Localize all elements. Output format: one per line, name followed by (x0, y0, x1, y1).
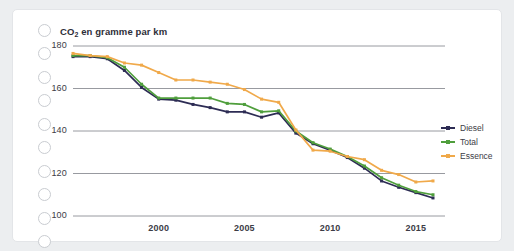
data-point-essence (174, 79, 177, 82)
data-point-essence (432, 179, 435, 182)
data-point-total (226, 102, 229, 105)
data-point-essence (277, 101, 280, 104)
data-point-diesel (209, 106, 212, 109)
legend-label: Diesel (460, 123, 484, 133)
data-point-diesel (380, 179, 383, 182)
data-point-essence (140, 64, 143, 67)
legend-swatch-icon (441, 124, 455, 133)
data-point-diesel (243, 110, 246, 113)
y-axis-tick-label: 160 (41, 83, 67, 93)
line-chart-svg (13, 10, 503, 243)
data-point-essence (329, 150, 332, 153)
legend-swatch-icon (441, 152, 455, 161)
data-point-total (260, 110, 263, 113)
data-point-essence (363, 158, 366, 161)
data-point-total (157, 97, 160, 100)
data-point-essence (226, 83, 229, 86)
data-point-essence (243, 88, 246, 91)
data-point-essence (72, 52, 75, 55)
data-point-total (363, 165, 366, 168)
data-point-diesel (140, 86, 143, 89)
y-axis-tick-label: 180 (41, 40, 67, 50)
legend-item-diesel[interactable]: Diesel (441, 121, 503, 135)
data-point-total (380, 176, 383, 179)
data-point-essence (209, 81, 212, 84)
x-axis-tick-label: 2000 (139, 223, 179, 233)
y-axis-tick-label: 140 (41, 125, 67, 135)
data-point-essence (157, 71, 160, 74)
data-point-total (192, 97, 195, 100)
data-point-total (397, 184, 400, 187)
chart-legend: DieselTotalEssence (441, 121, 503, 163)
legend-label: Essence (460, 151, 493, 161)
data-point-essence (312, 149, 315, 152)
data-point-total (140, 83, 143, 86)
screenshot-root: CO2 en gramme par km 1801601401201002000… (0, 0, 514, 251)
data-point-total (432, 193, 435, 196)
data-point-total (123, 66, 126, 69)
plot-area: 1801601401201002000200520102015 (13, 10, 503, 243)
data-point-essence (380, 169, 383, 172)
x-axis-tick-label: 2005 (224, 223, 264, 233)
data-point-essence (260, 98, 263, 101)
data-point-diesel (432, 196, 435, 199)
data-point-essence (346, 155, 349, 158)
y-axis-tick-label: 120 (41, 168, 67, 178)
data-point-total (312, 141, 315, 144)
data-point-total (209, 97, 212, 100)
legend-swatch-icon (441, 138, 455, 147)
data-point-diesel (260, 116, 263, 119)
data-point-total (243, 103, 246, 106)
data-point-diesel (192, 103, 195, 106)
data-point-total (414, 190, 417, 193)
legend-label: Total (460, 137, 478, 147)
data-point-essence (397, 173, 400, 176)
legend-item-total[interactable]: Total (441, 135, 503, 149)
data-point-essence (89, 54, 92, 57)
data-point-essence (106, 55, 109, 58)
data-point-essence (123, 62, 126, 65)
chart-card: CO2 en gramme par km 1801601401201002000… (12, 9, 502, 242)
data-point-total (174, 97, 177, 100)
data-point-essence (192, 79, 195, 82)
data-point-total (277, 109, 280, 112)
x-axis-tick-label: 2010 (310, 223, 350, 233)
y-axis-tick-label: 100 (41, 210, 67, 220)
data-point-essence (414, 181, 417, 184)
data-point-essence (294, 128, 297, 131)
x-axis-tick-label: 2015 (396, 223, 436, 233)
legend-item-essence[interactable]: Essence (441, 149, 503, 163)
data-point-diesel (226, 110, 229, 113)
